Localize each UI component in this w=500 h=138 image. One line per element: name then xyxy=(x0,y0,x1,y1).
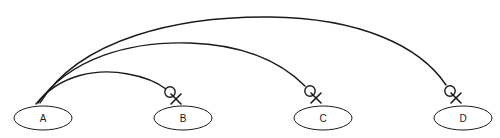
node-c-label: C xyxy=(319,113,326,124)
edge-a-b[interactable] xyxy=(36,72,181,104)
edge-a-d-path xyxy=(40,17,446,103)
node-b-label: B xyxy=(180,113,187,124)
diagram-canvas: A B C D xyxy=(0,0,500,138)
node-d[interactable]: D xyxy=(434,106,492,130)
edge-a-c[interactable] xyxy=(38,43,321,103)
edge-a-d[interactable] xyxy=(40,17,461,103)
node-a-label: A xyxy=(40,113,47,124)
node-b[interactable]: B xyxy=(154,106,212,130)
node-d-label: D xyxy=(459,113,466,124)
edges-group xyxy=(36,17,461,104)
edge-a-b-path xyxy=(36,72,166,104)
graph-diagram: A B C D xyxy=(0,0,500,138)
nodes-group: A B C D xyxy=(14,106,492,130)
node-c[interactable]: C xyxy=(294,106,352,130)
node-a[interactable]: A xyxy=(14,106,72,130)
